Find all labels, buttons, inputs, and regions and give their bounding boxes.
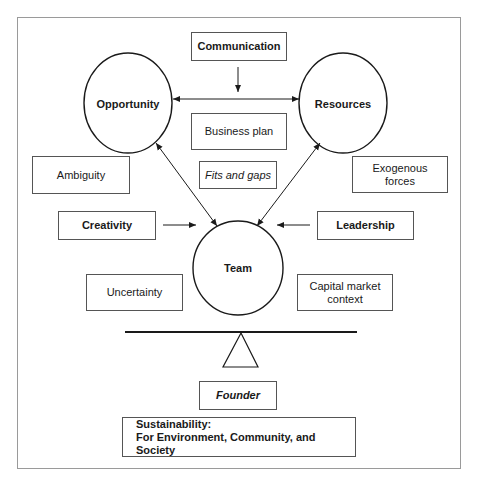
capital-market-line2: context <box>327 293 362 306</box>
exogenous-forces-line2: forces <box>385 175 415 188</box>
communication-box: Communication <box>191 32 287 61</box>
creativity-box: Creativity <box>58 211 156 240</box>
exogenous-forces-box: Exogenous forces <box>352 156 448 193</box>
fits-and-gaps-box: Fits and gaps <box>199 161 277 189</box>
leadership-box: Leadership <box>317 211 414 240</box>
fulcrum-triangle <box>223 333 258 367</box>
sustainability-box: Sustainability: For Environment, Communi… <box>122 417 356 457</box>
business-plan-box: Business plan <box>191 113 287 150</box>
capital-market-line1: Capital market <box>310 280 381 293</box>
uncertainty-box: Uncertainty <box>86 274 183 311</box>
ambiguity-box: Ambiguity <box>32 156 130 194</box>
founder-box: Founder <box>199 381 277 410</box>
opportunity-label: Opportunity <box>97 98 160 110</box>
resources-label: Resources <box>315 98 371 110</box>
sustainability-line1: Sustainability: <box>136 418 211 431</box>
exogenous-forces-line1: Exogenous <box>372 162 427 175</box>
team-label: Team <box>224 262 252 274</box>
sustainability-line2: For Environment, Community, and Society <box>136 431 355 457</box>
capital-market-context-box: Capital market context <box>297 274 393 311</box>
